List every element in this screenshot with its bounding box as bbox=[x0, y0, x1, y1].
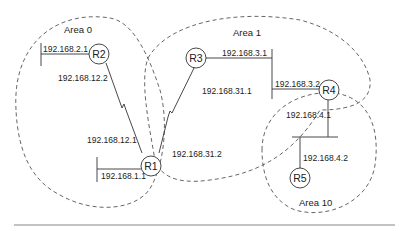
router-r1-label: R1 bbox=[144, 160, 158, 172]
addr-r5-lan4: 192.168.4.2 bbox=[303, 153, 348, 163]
addr-r2-lan: 192.168.2.1 bbox=[43, 44, 88, 54]
serial-link-r1-r3 bbox=[159, 66, 195, 153]
addr-r1-serial-r3: 192.168.31.2 bbox=[172, 149, 222, 159]
area1-label: Area 1 bbox=[233, 27, 261, 38]
addr-r4-lan3: 192.168.3.2 bbox=[275, 79, 320, 89]
router-r2-label: R2 bbox=[92, 48, 106, 60]
addr-r1-lan: 192.168.1.1 bbox=[101, 171, 146, 181]
area0-label: Area 0 bbox=[64, 24, 92, 35]
router-r3-label: R3 bbox=[189, 52, 203, 64]
addr-r3-lan: 192.168.3.1 bbox=[222, 48, 267, 58]
addr-r2-serial: 192.168.12.2 bbox=[58, 73, 108, 83]
addr-r1-serial-r2: 192.168.12.1 bbox=[87, 135, 137, 145]
router-r5-label: R5 bbox=[293, 172, 307, 184]
addr-r4-lan4: 192.168.4.1 bbox=[286, 110, 331, 120]
network-diagram: Area 0 Area 1 Area 10 R2 R3 R4 R1 R5 192… bbox=[0, 0, 400, 231]
addr-r3-serial: 192.168.31.1 bbox=[202, 86, 252, 96]
router-r4-label: R4 bbox=[322, 84, 336, 96]
area10-label: Area 10 bbox=[299, 197, 332, 208]
